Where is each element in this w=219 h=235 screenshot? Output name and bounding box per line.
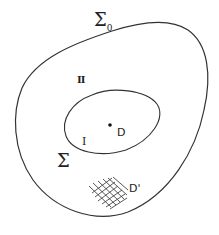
sigma-symbol: Σ — [94, 9, 107, 30]
inner-boundary-label: Σ — [57, 152, 70, 170]
inner-boundary-curve — [64, 90, 159, 153]
diagram-canvas — [0, 0, 219, 235]
outer-boundary-label: Σ0 — [94, 11, 112, 29]
patch-d-prime-label: D' — [129, 183, 141, 194]
hatched-patch — [89, 177, 128, 209]
region-i-label: I — [82, 136, 86, 147]
region-ii-label: II — [77, 75, 84, 85]
sigma-subscript: 0 — [107, 23, 113, 33]
point-d-marker — [108, 123, 112, 127]
point-d-label: D — [117, 127, 125, 138]
